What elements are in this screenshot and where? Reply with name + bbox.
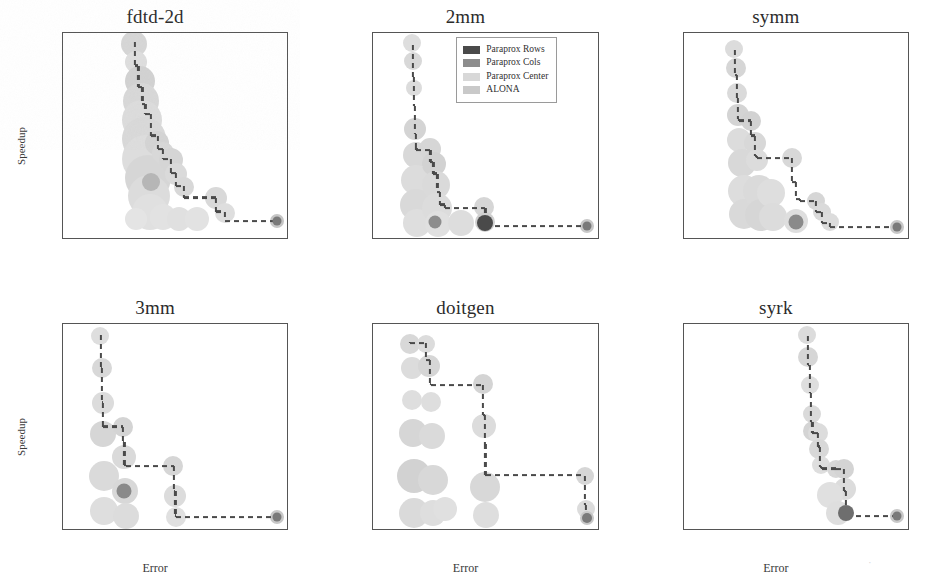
pareto-segment [847, 515, 898, 517]
y-tick-label: 10 [683, 127, 684, 139]
pareto-segment [810, 393, 812, 422]
y-tick-label: 8 [62, 326, 63, 338]
pareto-segment [843, 469, 845, 491]
y-tick-label: 2.0 [62, 125, 63, 137]
highlighted-data-point [582, 513, 592, 523]
pareto-segment [750, 121, 752, 136]
panel-fdtd-2d: fdtd-2dSpeedup1.01.52.02.53.01.000.750.5… [0, 0, 310, 291]
data-point-cloud [128, 175, 170, 217]
y-tick-label: 10 [683, 424, 684, 436]
data-point-cloud [399, 498, 429, 528]
data-point-cloud [728, 175, 760, 207]
x-tick-label: 0.25 [216, 238, 236, 239]
highlighted-data-point [272, 512, 281, 521]
plot-area: 2468101.000.750.500.250.00 [372, 323, 598, 530]
data-point-cloud [746, 149, 768, 171]
data-point-cloud [397, 459, 431, 493]
pareto-segment [410, 342, 426, 344]
x-tick-label: 0.00 [267, 238, 287, 239]
x-tick-label: 0.75 [735, 529, 755, 530]
data-point-cloud [473, 502, 499, 528]
data-point-cloud [150, 204, 176, 230]
y-tick-label: 3.0 [62, 48, 63, 60]
panel-title: 3mm [0, 297, 310, 319]
data-point-cloud [185, 207, 209, 231]
data-point-cloud [448, 210, 474, 236]
x-tick-label: 0.50 [165, 238, 185, 239]
plot-area: 510151.000.750.500.250.00Paraprox RowsPa… [372, 32, 598, 239]
pareto-segment [103, 426, 123, 428]
y-tick-label: 2 [62, 473, 63, 485]
data-point-cloud [743, 175, 775, 207]
x-tick-label: 1.00 [63, 238, 83, 239]
pareto-segment [413, 77, 415, 106]
highlighted-data-point [838, 505, 854, 521]
y-tick-label: 6 [372, 408, 373, 420]
pareto-segment [736, 75, 738, 98]
panel-3mm: 3mmSpeedupError24681.000.750.500.250.00 [0, 291, 310, 582]
y-tick-label: 20 [683, 343, 684, 355]
pareto-segment [174, 491, 176, 516]
x-tick-label: 1.00 [373, 238, 393, 239]
panel-title: 2mm [310, 6, 620, 28]
legend-label: Paraprox Cols [486, 56, 540, 69]
x-tick-label: 1.00 [684, 238, 704, 239]
data-point-cloud [113, 503, 139, 529]
data-point-cloud [125, 155, 171, 201]
panel-doitgen: doitgenError2468101.000.750.500.250.00 [310, 291, 620, 582]
pareto-segment [425, 343, 427, 360]
data-point-cloud [142, 173, 160, 191]
x-tick-label: 0.25 [837, 529, 857, 530]
highlighted-data-point [788, 215, 803, 230]
x-tick-label: 0.75 [424, 238, 444, 239]
legend-entry: Paraprox Cols [463, 56, 548, 69]
panel-title: doitgen [310, 297, 620, 319]
pareto-segment [757, 157, 792, 159]
figure-grid: fdtd-2dSpeedup1.01.52.02.53.01.000.750.5… [0, 0, 931, 582]
pareto-segment [431, 384, 483, 386]
y-tick-label: 8 [372, 371, 373, 383]
pareto-segment [170, 159, 172, 173]
pareto-segment [215, 198, 217, 212]
pareto-segment [100, 335, 102, 368]
x-tick-label: 0.75 [114, 238, 134, 239]
x-tick-label: 0.50 [786, 238, 806, 239]
x-tick-label: 0.25 [837, 238, 857, 239]
y-tick-label: 20 [683, 34, 684, 46]
plot-area: 24681.000.750.500.250.00 [62, 323, 288, 530]
pareto-segment [429, 360, 431, 384]
data-point-cloud [125, 66, 155, 96]
legend-label: Paraprox Rows [486, 43, 544, 56]
x-tick-label: 0.00 [887, 529, 907, 530]
x-tick-label: 0.50 [475, 238, 495, 239]
x-tick-label: 0.00 [577, 529, 597, 530]
x-tick-label: 0.25 [216, 529, 236, 530]
pareto-segment [134, 42, 136, 65]
y-tick-label: 0 [683, 506, 684, 518]
data-point-cloud [418, 465, 448, 495]
legend-label: Paraprox Center [486, 70, 548, 83]
x-tick-label: 1.00 [373, 529, 393, 530]
y-tick-label: 15 [372, 47, 373, 59]
highlighted-data-point [893, 222, 902, 231]
legend-swatch-icon [463, 46, 480, 54]
data-point-cloud [403, 209, 431, 237]
pareto-segment [830, 226, 897, 228]
y-tick-label: 1.5 [62, 164, 63, 176]
y-tick-label: 6 [62, 375, 63, 387]
pareto-segment [790, 158, 792, 182]
x-tick-label: 0.50 [165, 529, 185, 530]
panel-syrk: syrkError051015201.000.750.500.250.00 [621, 291, 931, 582]
x-axis-label: Error [310, 561, 620, 576]
y-tick-label: 4 [372, 444, 373, 456]
data-point-cloud [727, 128, 751, 152]
data-point-cloud [419, 423, 445, 449]
pareto-segment [141, 87, 143, 104]
x-tick-label: 0.75 [114, 529, 134, 530]
plot-area: 051015201.000.750.500.250.00 [683, 323, 909, 530]
y-tick-label: 4 [62, 424, 63, 436]
legend: Paraprox RowsParaprox ColsParaprox Cente… [456, 37, 557, 103]
legend-label: ALONA [486, 83, 519, 96]
pareto-segment [225, 220, 277, 222]
highlighted-data-point [429, 216, 442, 229]
